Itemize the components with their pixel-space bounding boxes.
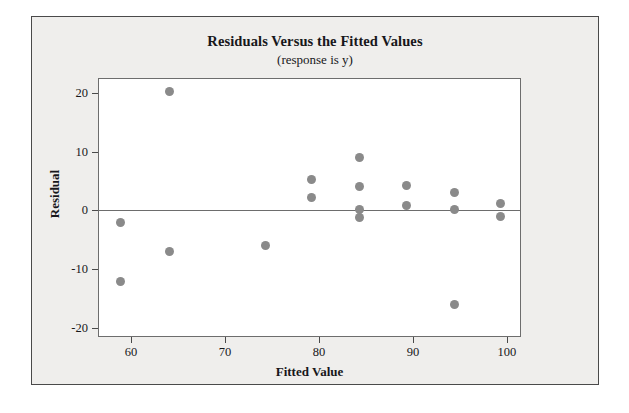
chart-subtitle: (response is y) [31,51,599,69]
data-point [307,193,316,202]
x-axis-tick [413,337,414,343]
plot-canvas [98,78,521,337]
x-axis-tick-label: 100 [487,346,527,358]
x-axis-tick-label: 80 [299,346,339,358]
data-point [116,277,125,286]
y-axis-tick-label: 10 [48,146,88,158]
data-point [450,188,459,197]
y-axis-tick [92,152,98,153]
y-axis-tick [92,210,98,211]
y-axis-tick [92,93,98,94]
y-axis-tick-label: 20 [48,87,88,99]
data-point [261,241,270,250]
y-axis-tick-label: -10 [48,263,88,275]
x-axis-tick-label: 70 [205,346,245,358]
data-point [165,247,174,256]
x-axis-tick-label: 60 [111,346,151,358]
data-point [496,199,505,208]
data-point [450,205,459,214]
y-axis-tick-label: -20 [48,322,88,334]
data-point [116,218,125,227]
title-block: Residuals Versus the Fitted Values (resp… [31,32,599,69]
data-point [450,300,459,309]
x-axis-tick [319,337,320,343]
y-axis-tick-label: 0 [48,204,88,216]
y-axis-tick [92,269,98,270]
x-axis-title: Fitted Value [98,364,521,380]
page-title: Residuals Versus the Fitted Values [31,32,599,50]
data-point [355,213,364,222]
data-point [165,87,174,96]
y-axis-tick [92,328,98,329]
data-point [402,181,411,190]
data-point [355,182,364,191]
data-point [355,153,364,162]
data-point [402,201,411,210]
x-axis-tick-label: 90 [393,346,433,358]
x-axis-tick [131,337,132,343]
residual-plot-figure: Residuals Versus the Fitted Values (resp… [0,0,629,413]
data-point [307,175,316,184]
data-point [496,212,505,221]
x-axis-tick [225,337,226,343]
x-axis-tick [507,337,508,343]
